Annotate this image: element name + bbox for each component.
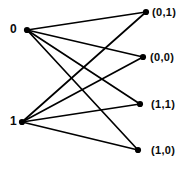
graph-node (137, 101, 143, 107)
edges-group (22, 12, 146, 150)
graph-node (140, 54, 146, 60)
node-label-r01: (0,1) (152, 6, 176, 18)
node-label-1: 1 (10, 115, 17, 127)
graph-edge (22, 122, 138, 150)
graph-node (19, 119, 25, 125)
nodes-group (19, 9, 149, 153)
node-label-r11: (1,1) (151, 98, 175, 110)
node-label-0: 0 (10, 23, 17, 35)
bipartite-graph-diagram: 01(0,1)(0,0)(1,1)(1,0) (0, 0, 191, 169)
node-label-r00: (0,0) (150, 51, 174, 63)
graph-node (24, 27, 30, 33)
graph-node (135, 147, 141, 153)
graph-edge (27, 30, 143, 57)
node-label-r10: (1,0) (151, 144, 175, 156)
graph-node (143, 9, 149, 15)
